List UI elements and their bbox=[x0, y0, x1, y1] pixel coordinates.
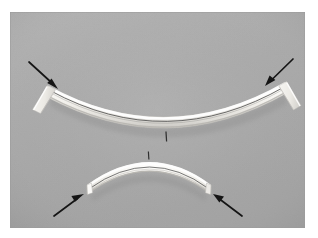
photograph-canvas bbox=[0, 0, 318, 238]
figure-container: Upper curved band (concave up) Lower cur… bbox=[0, 0, 318, 238]
photo-grain-overlay bbox=[10, 12, 305, 228]
